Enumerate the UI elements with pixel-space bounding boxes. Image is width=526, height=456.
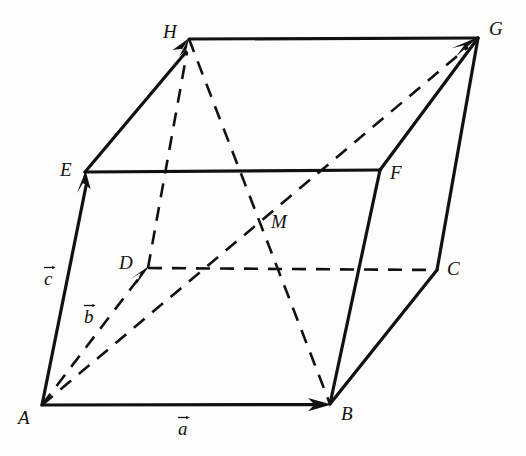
edge-FG bbox=[380, 38, 478, 170]
edge-BF bbox=[330, 170, 380, 404]
vertex-label-G: G bbox=[489, 19, 503, 38]
edge-EF bbox=[85, 170, 380, 172]
edge-AD-shaft bbox=[42, 278, 139, 405]
vertex-label-B: B bbox=[341, 404, 353, 423]
vector-letter-a: a bbox=[178, 418, 188, 439]
parallelepiped-figure bbox=[0, 0, 526, 456]
edge-CG bbox=[437, 38, 478, 270]
vector-label-c: c bbox=[44, 267, 52, 288]
edge-DH-shaft bbox=[148, 52, 187, 268]
edge-HG bbox=[189, 38, 478, 39]
vector-letter-c: c bbox=[44, 268, 52, 289]
vertex-label-M: M bbox=[271, 212, 287, 231]
vertex-label-A: A bbox=[18, 408, 30, 427]
arrow-b-head bbox=[131, 265, 150, 284]
edge-EH-shaft bbox=[85, 52, 186, 172]
diagonal-AG-shaft bbox=[42, 47, 468, 405]
vector-arrow-accent-a bbox=[177, 414, 190, 421]
vertex-label-F: F bbox=[390, 163, 402, 182]
vector-label-b: b bbox=[84, 305, 94, 326]
vector-letter-b: b bbox=[84, 306, 94, 327]
vertex-label-E: E bbox=[60, 160, 72, 179]
vector-arrow-accent-b bbox=[83, 302, 96, 309]
figure-canvas: A B C D E F G H M a b c bbox=[0, 0, 526, 456]
diagonal-HB bbox=[189, 39, 330, 404]
edge-BC bbox=[330, 270, 437, 404]
vector-arrow-accent-c bbox=[43, 264, 56, 271]
solid-arrowheads-group bbox=[77, 38, 332, 411]
hidden-edges-group bbox=[42, 39, 468, 405]
vertex-label-H: H bbox=[163, 22, 177, 41]
edge-DC bbox=[148, 268, 437, 270]
vector-label-a: a bbox=[178, 417, 188, 438]
vertex-label-C: C bbox=[447, 259, 460, 278]
vertex-label-D: D bbox=[119, 253, 133, 272]
